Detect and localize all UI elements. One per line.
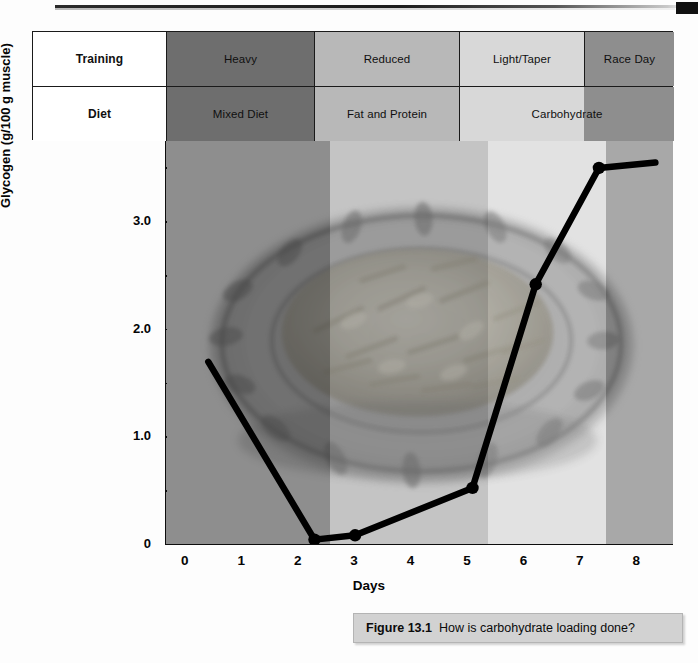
x-tick-label-1: 1 [237,553,245,568]
table-row-diet: Diet Mixed Diet Fat and Protein Carbohyd… [33,86,672,141]
table-header-training: Training [33,32,166,86]
y-tick-label-2: 2.0 [91,321,151,336]
table-row-training: Training Heavy Reduced Light/Taper Race … [33,32,672,86]
data-point-3 [466,482,478,494]
x-tick-7 [580,544,582,545]
y-tick-1 [165,436,167,438]
data-point-4 [530,278,542,290]
glycogen-line-chart [165,141,673,545]
y-minor-tick-0 [165,490,167,492]
table-cell-diet-carbohydrate: Carbohydrate [459,87,674,141]
x-tick-label-2: 2 [294,553,302,568]
y-tick-3 [165,221,167,223]
y-minor-tick-2 [165,275,167,277]
x-tick-0 [185,544,187,545]
table-cell-diet-mixed: Mixed Diet [166,87,314,141]
table-cell-training-heavy: Heavy [166,32,314,86]
figure-caption: Figure 13.1 How is carbohydrate loading … [353,613,683,643]
y-minor-tick-1 [165,383,167,385]
table-cell-diet-fat-protein: Fat and Protein [314,87,459,141]
x-tick-label-4: 4 [407,553,415,568]
x-tick-label-6: 6 [520,553,528,568]
table-cell-training-light-taper: Light/Taper [459,32,584,86]
table-cell-training-reduced: Reduced [314,32,459,86]
x-tick-8 [636,544,638,545]
x-tick-1 [241,544,243,545]
x-tick-3 [354,544,356,545]
x-tick-5 [467,544,469,545]
figure-caption-text: How is carbohydrate loading done? [439,621,635,635]
x-tick-label-8: 8 [633,553,641,568]
x-tick-2 [298,544,300,545]
y-axis-title: Glycogen (g/100 g muscle) [0,43,13,208]
x-axis-title: Days [0,578,698,593]
x-tick-label-3: 3 [350,553,358,568]
y-tick-2 [165,329,167,331]
y-tick-0 [165,544,167,545]
series-line-0 [208,163,655,540]
y-tick-label-0: 0 [91,536,151,551]
data-point-5 [593,162,605,174]
glycogen-data-line [166,141,673,545]
y-tick-label-3: 3.0 [91,213,151,228]
data-point-2 [349,529,361,541]
y-minor-tick-3 [165,167,167,169]
x-tick-label-0: 0 [181,553,189,568]
table-cell-training-race-day: Race Day [584,32,674,86]
x-tick-4 [411,544,413,545]
x-tick-6 [524,544,526,545]
phase-table: Training Heavy Reduced Light/Taper Race … [32,31,673,140]
x-tick-label-5: 5 [463,553,471,568]
page-corner-marker [676,2,698,14]
figure-caption-number: Figure 13.1 [366,621,432,635]
y-tick-label-1: 1.0 [91,428,151,443]
header-rule-shadow [55,8,675,10]
x-tick-label-7: 7 [576,553,584,568]
table-header-diet: Diet [33,87,166,141]
